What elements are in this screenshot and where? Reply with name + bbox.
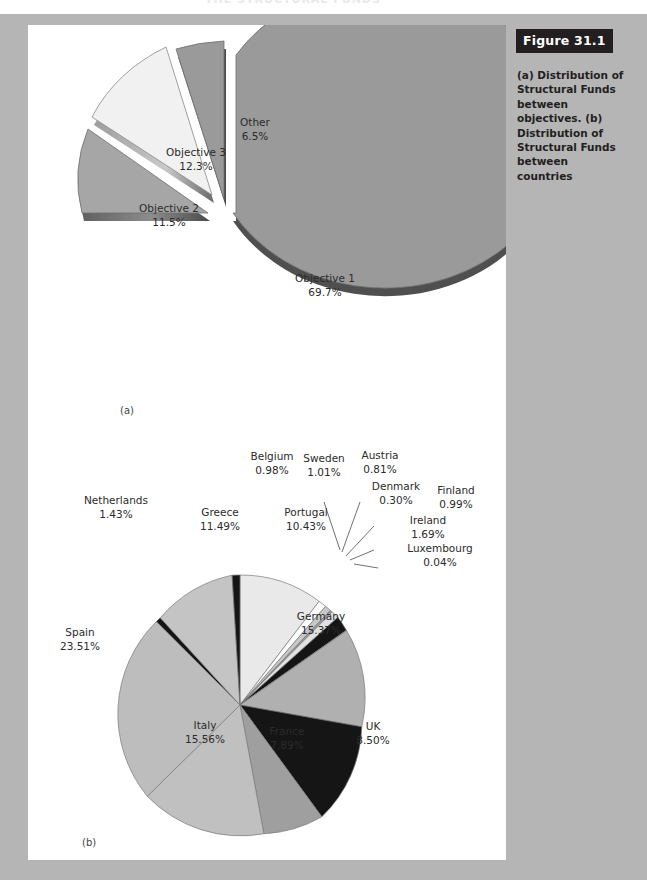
running-head-text: THE STRUCTURAL FUNDS (205, 0, 381, 6)
panel-b-letter: (b) (82, 837, 96, 848)
label-sweden-value: 1.01% (307, 466, 340, 478)
label-belgium-value: 0.98% (255, 464, 288, 476)
label-denmark-value: 0.30% (379, 494, 412, 506)
label-italy-name: Italy (194, 719, 217, 731)
label-finland-name: Finland (437, 484, 475, 496)
figure-number-tag: Figure 31.1 (516, 29, 613, 53)
panel-a-letter: (a) (120, 405, 134, 416)
label-portugal-name: Portugal (284, 506, 328, 518)
pie-a-svg: Other 6.5% Objective 3 12.3% Objective 2… (28, 25, 506, 445)
label-objective-1-value: 69.7% (308, 286, 341, 298)
label-greece-name: Greece (201, 506, 238, 518)
label-luxembourg-value: 0.04% (423, 556, 456, 568)
pie-chart-b: Belgium 0.98% Netherlands 1.43% Greece 1… (28, 440, 506, 860)
running-head: THE STRUCTURAL FUNDS (0, 0, 647, 14)
label-austria-name: Austria (361, 449, 398, 461)
label-ireland-value: 1.69% (411, 528, 444, 540)
pie-b-leaders (324, 502, 378, 568)
label-denmark-name: Denmark (372, 480, 421, 492)
label-objective-2-value: 11.5% (152, 216, 185, 228)
label-sweden-name: Sweden (303, 452, 345, 464)
figure-page: THE STRUCTURAL FUNDS (0, 0, 647, 895)
label-greece-value: 11.49% (200, 520, 240, 532)
label-spain-value: 23.51% (60, 640, 100, 652)
label-finland-value: 0.99% (439, 498, 472, 510)
label-luxembourg-name: Luxembourg (407, 542, 472, 554)
pie-b-svg: Belgium 0.98% Netherlands 1.43% Greece 1… (28, 440, 506, 860)
label-uk-value: 8.50% (356, 734, 389, 746)
label-uk-name: UK (366, 720, 382, 732)
label-france-name: France (270, 725, 305, 737)
label-other-name: Other (240, 116, 270, 128)
slice-objective-1 (233, 25, 506, 296)
figure-white-panel: Other 6.5% Objective 3 12.3% Objective 2… (28, 25, 506, 860)
label-italy-value: 15.56% (185, 733, 225, 745)
label-austria-value: 0.81% (363, 463, 396, 475)
label-objective-2-name: Objective 2 (139, 202, 199, 214)
figure-caption-text: (a) Distribution of Structural Funds bet… (517, 68, 627, 183)
label-netherlands-value: 1.43% (99, 508, 132, 520)
label-france-value: 7.89% (270, 739, 303, 751)
label-belgium-name: Belgium (250, 450, 293, 462)
label-ireland-name: Ireland (410, 514, 446, 526)
label-spain-name: Spain (65, 626, 94, 638)
label-netherlands-name: Netherlands (84, 494, 148, 506)
figure-caption-column: Figure 31.1 (a) Distribution of Structur… (516, 25, 628, 860)
label-objective-3-value: 12.3% (179, 160, 212, 172)
label-other-value: 6.5% (242, 130, 269, 142)
label-objective-3-name: Objective 3 (166, 146, 226, 158)
label-portugal-value: 10.43% (286, 520, 326, 532)
label-germany-name: Germany (297, 610, 345, 622)
label-objective-1-name: Objective 1 (295, 272, 355, 284)
label-germany-value: 15.37% (301, 624, 341, 636)
